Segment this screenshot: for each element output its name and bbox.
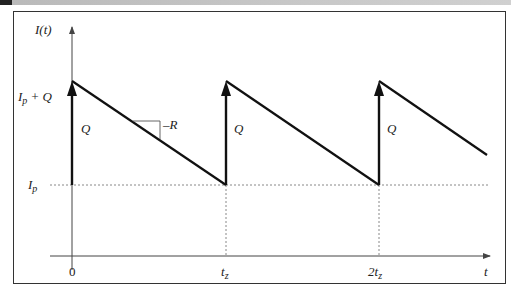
x-axis-label: t (484, 264, 488, 279)
xtick-tz-label: tz (221, 264, 229, 281)
xtick-0-label: 0 (69, 264, 76, 279)
slope-label: –R (162, 117, 178, 132)
ytick-peak-label: Ip + Q (17, 89, 53, 106)
xtick-2tz-label: 2tz (368, 264, 382, 281)
y-axis-label: I(t) (34, 22, 52, 37)
depletion-lines (72, 81, 487, 185)
jump-label-1: Q (81, 121, 91, 136)
replenishment-arrows (67, 81, 384, 185)
ytick-base-label: Ip (27, 177, 37, 194)
jump-label-2: Q (234, 121, 244, 136)
sawtooth-diagram: I(t) t Ip + Q Ip Q Q Q –R 0 tz 2tz (0, 0, 511, 296)
jump-label-3: Q (387, 121, 397, 136)
